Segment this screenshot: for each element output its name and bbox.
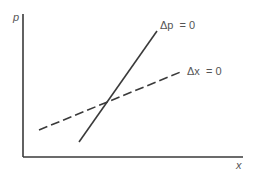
y-axis-label: p — [12, 11, 19, 23]
delta-x-zero-label: Δx = 0 — [187, 65, 222, 77]
phase-diagram: p x Δp = 0 Δx = 0 — [0, 0, 257, 173]
delta-x-zero-line — [39, 71, 183, 130]
delta-p-zero-line — [79, 31, 157, 142]
delta-p-zero-label: Δp = 0 — [160, 19, 195, 31]
x-axis-label: x — [235, 159, 242, 171]
